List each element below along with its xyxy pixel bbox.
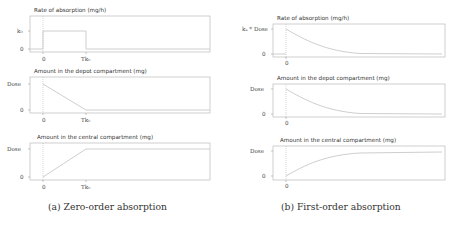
- subplot-title: Rate of absorption (mg/h): [277, 15, 349, 22]
- xtick-zero: 0: [285, 120, 289, 126]
- ytick-zero: 0: [262, 111, 266, 117]
- central-curve: [43, 149, 210, 177]
- ytick-zero: 0: [262, 51, 266, 57]
- ytick-top: k₀: [17, 28, 23, 34]
- xtick-zero: 0: [285, 60, 289, 66]
- xtick-tk0: Tk₀: [81, 184, 91, 190]
- panel-b: Rate of absorption (mg/h) kₐ * Dose 0 0 …: [242, 15, 445, 189]
- ytick-dose: Dose: [7, 146, 22, 152]
- xtick-tk0: Tk₀: [81, 117, 91, 123]
- subplot-title: Amount in the central compartment (mg): [37, 134, 153, 141]
- ytick-dose: Dose: [250, 86, 265, 92]
- caption-b: (b) First-order absorption: [281, 201, 401, 212]
- depot-curve: [286, 89, 442, 114]
- subplot-b-rate: Rate of absorption (mg/h) kₐ * Dose 0 0: [242, 15, 445, 66]
- xtick-zero: 0: [42, 184, 46, 190]
- plot-frame: [273, 84, 445, 117]
- xtick-zero: 0: [42, 117, 46, 123]
- plot-frame: [273, 146, 445, 180]
- panel-a: Rate of absorption (mg/h) k₀ 0 0 Tk₀ Amo…: [7, 7, 210, 190]
- subplot-title: Amount in the depot compartment (mg): [277, 75, 390, 82]
- central-curve: [286, 152, 442, 176]
- ytick-zero: 0: [262, 173, 266, 179]
- subplot-title: Amount in the central compartment (mg): [280, 137, 396, 144]
- caption-a: (a) Zero-order absorption: [48, 201, 167, 212]
- ytick-zero: 0: [20, 46, 24, 52]
- xtick-zero: 0: [285, 183, 289, 189]
- rate-curve: [30, 31, 210, 49]
- ytick-top: kₐ * Dose: [242, 26, 269, 32]
- figure: Rate of absorption (mg/h) k₀ 0 0 Tk₀ Amo…: [0, 0, 450, 227]
- ytick-zero: 0: [20, 174, 24, 180]
- subplot-a-central: Amount in the central compartment (mg) D…: [7, 134, 210, 190]
- ytick-zero: 0: [20, 107, 24, 113]
- subplot-b-depot: Amount in the depot compartment (mg) Dos…: [250, 75, 445, 126]
- plot-frame: [273, 24, 445, 57]
- subplot-title: Rate of absorption (mg/h): [34, 7, 106, 14]
- subplot-a-depot: Amount in the depot compartment (mg) Dos…: [7, 68, 210, 123]
- xtick-tk0: Tk₀: [81, 56, 91, 62]
- plot-frame: [30, 16, 210, 52]
- ytick-dose: Dose: [250, 148, 265, 154]
- subplot-a-rate: Rate of absorption (mg/h) k₀ 0 0 Tk₀: [17, 7, 210, 62]
- subplot-title: Amount in the depot compartment (mg): [34, 68, 147, 75]
- xtick-zero: 0: [42, 56, 46, 62]
- subplot-b-central: Amount in the central compartment (mg) D…: [250, 137, 445, 189]
- ytick-dose: Dose: [7, 81, 22, 87]
- plot-frame: [30, 77, 210, 113]
- rate-curve: [286, 29, 442, 54]
- depot-curve: [43, 84, 210, 110]
